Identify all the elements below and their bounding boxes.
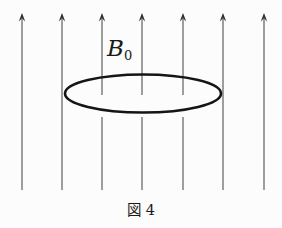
figure-caption: 図 4: [127, 202, 155, 218]
physics-figure: B0 図 4: [0, 0, 282, 228]
field-label-subscript: 0: [124, 48, 132, 63]
magnetic-field-diagram: B0 図 4: [0, 0, 282, 228]
field-label-base: B: [106, 35, 124, 61]
figure-background: [0, 0, 282, 228]
